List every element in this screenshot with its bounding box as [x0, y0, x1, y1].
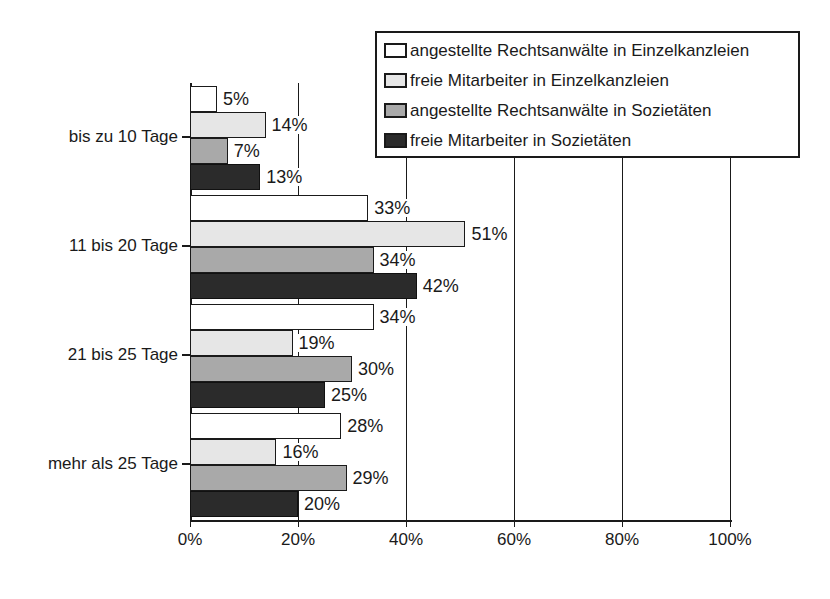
x-tick-label-0: 0%: [178, 530, 203, 550]
x-tick-label-1: 20%: [281, 530, 315, 550]
x-tick-mark-0: [190, 520, 191, 527]
bar-value-cat0-series0: 5%: [222, 90, 250, 108]
bar-cat3-series0: [190, 413, 341, 439]
category-label-0: bis zu 10 Tage: [69, 127, 178, 147]
bar-cat2-series2: [190, 356, 352, 382]
x-tick-label-5: 100%: [708, 530, 751, 550]
x-tick-mark-5: [730, 520, 731, 527]
category-axis: bis zu 10 Tage 11 bis 20 Tage 21 bis 25 …: [0, 0, 178, 599]
bar-value-cat0-series3: 13%: [265, 168, 303, 186]
legend: angestellte Rechtsanwälte in Einzelkanzl…: [375, 31, 800, 158]
bar-cat0-series3: [190, 164, 260, 190]
bar-value-cat3-series3: 20%: [303, 495, 341, 513]
legend-label-0: angestellte Rechtsanwälte in Einzelkanzl…: [410, 42, 749, 59]
bar-cat2-series3: [190, 382, 325, 408]
x-tick-label-4: 80%: [605, 530, 639, 550]
legend-swatch-icon-2: [384, 103, 407, 118]
bar-cat3-series1: [190, 439, 276, 465]
legend-item-2: angestellte Rechtsanwälte in Sozietäten: [384, 97, 711, 123]
bar-value-cat3-series0: 28%: [346, 417, 384, 435]
bar-cat2-series1: [190, 330, 293, 356]
legend-label-2: angestellte Rechtsanwälte in Sozietäten: [410, 102, 711, 119]
x-tick-mark-2: [406, 520, 407, 527]
bar-value-cat1-series2: 34%: [379, 251, 417, 269]
bar-value-cat0-series1: 14%: [271, 116, 309, 134]
category-label-1: 11 bis 20 Tage: [69, 236, 178, 256]
category-label-3: mehr als 25 Tage: [48, 454, 178, 474]
bar-value-cat3-series1: 16%: [281, 443, 319, 461]
bar-value-cat1-series3: 42%: [422, 277, 460, 295]
bar-value-cat2-series3: 25%: [330, 386, 368, 404]
x-tick-mark-4: [622, 520, 623, 527]
legend-item-3: freie Mitarbeiter in Sozietäten: [384, 127, 631, 153]
legend-label-3: freie Mitarbeiter in Sozietäten: [410, 132, 631, 149]
bar-value-cat2-series0: 34%: [379, 308, 417, 326]
legend-swatch-icon-3: [384, 133, 407, 148]
legend-swatch-icon-0: [384, 43, 407, 58]
legend-item-1: freie Mitarbeiter in Einzelkanzleien: [384, 67, 669, 93]
bar-cat3-series3: [190, 491, 298, 517]
x-axis-line: [190, 520, 732, 522]
bar-cat2-series0: [190, 304, 374, 330]
bar-value-cat0-series2: 7%: [233, 142, 261, 160]
bar-cat0-series1: [190, 112, 266, 138]
bar-value-cat3-series2: 29%: [352, 469, 390, 487]
bar-value-cat2-series1: 19%: [298, 334, 336, 352]
bar-cat1-series2: [190, 247, 374, 273]
bar-cat1-series0: [190, 195, 368, 221]
x-tick-mark-1: [298, 520, 299, 527]
category-label-2: 21 bis 25 Tage: [68, 345, 178, 365]
legend-item-0: angestellte Rechtsanwälte in Einzelkanzl…: [384, 37, 749, 63]
x-tick-mark-3: [514, 520, 515, 527]
bar-value-cat1-series1: 51%: [470, 225, 508, 243]
legend-swatch-icon-1: [384, 73, 407, 88]
bar-cat0-series2: [190, 138, 228, 164]
bar-cat1-series1: [190, 221, 465, 247]
x-tick-label-3: 60%: [497, 530, 531, 550]
x-tick-label-2: 40%: [389, 530, 423, 550]
bar-cat0-series0: [190, 86, 217, 112]
bar-cat1-series3: [190, 273, 417, 299]
bar-value-cat2-series2: 30%: [357, 360, 395, 378]
bar-value-cat1-series0: 33%: [373, 199, 411, 217]
legend-label-1: freie Mitarbeiter in Einzelkanzleien: [410, 72, 669, 89]
bar-chart: bis zu 10 Tage 11 bis 20 Tage 21 bis 25 …: [0, 0, 830, 599]
bar-cat3-series2: [190, 465, 347, 491]
